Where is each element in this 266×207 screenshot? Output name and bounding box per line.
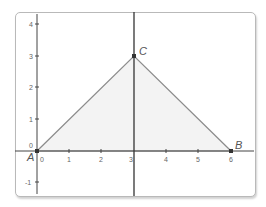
y-tick-label: 0 (29, 142, 33, 149)
y-tick-label: 4 (29, 21, 33, 28)
x-tick-label: 6 (229, 156, 233, 163)
point-b-label: B (235, 139, 242, 151)
x-tick-label: 1 (67, 156, 71, 163)
y-tick-label: 1 (29, 116, 33, 123)
y-tick-label: 3 (29, 53, 33, 60)
point-a-marker (35, 149, 39, 153)
x-tick-label: 3 (129, 156, 133, 163)
x-tick-label: 0 (40, 156, 44, 163)
x-tick-label: 5 (196, 156, 200, 163)
point-a-label: A (26, 151, 34, 163)
y-tick-label: -1 (25, 179, 31, 186)
coordinate-plane: 0 1 2 3 4 5 6 -1 0 1 2 3 4 A B C (0, 0, 266, 207)
point-c-label: C (139, 45, 147, 57)
x-tick-label: 2 (99, 156, 103, 163)
x-tick-label: 4 (164, 156, 168, 163)
y-tick-label: 2 (29, 84, 33, 91)
point-b-marker (229, 149, 233, 153)
point-c-marker (132, 54, 136, 58)
